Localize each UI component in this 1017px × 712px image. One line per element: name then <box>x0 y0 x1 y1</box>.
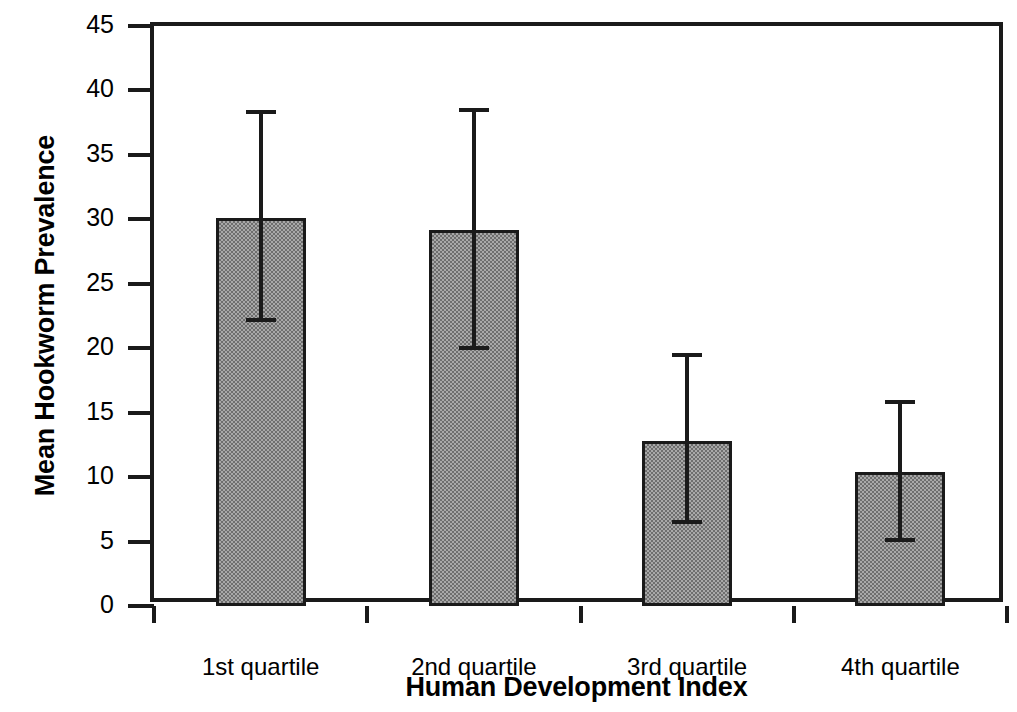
error-bar-cap-upper <box>672 353 702 357</box>
y-axis-tick-mark <box>128 282 154 286</box>
y-axis-tick-mark <box>128 88 154 92</box>
error-bar-cap-lower <box>885 538 915 542</box>
y-axis-tick-label-text: 5 <box>100 526 114 555</box>
error-bar-cap-lower <box>459 346 489 350</box>
error-bar-stem <box>259 112 263 320</box>
y-axis-title: Mean Hookworm Prevalence <box>30 16 61 616</box>
y-axis-tick-mark <box>128 411 154 415</box>
y-axis-tick-label-text: 0 <box>100 590 114 619</box>
y-axis-tick-mark <box>128 153 154 157</box>
error-bar-stem <box>898 402 902 540</box>
x-axis-tick-mark <box>365 606 369 623</box>
y-axis-tick-mark <box>128 24 154 28</box>
x-axis-tick-mark <box>152 606 156 623</box>
error-bar-cap-lower <box>672 520 702 524</box>
y-axis-tick-label-text: 30 <box>86 203 114 232</box>
x-axis-category-label: 4th quartile <box>794 653 1007 681</box>
y-axis-tick-label-text: 35 <box>86 139 114 168</box>
y-axis-tick-mark <box>128 540 154 544</box>
x-axis-tick-mark <box>579 606 583 623</box>
error-bar-stem <box>685 355 689 523</box>
y-axis-tick-mark <box>128 604 154 608</box>
y-axis-tick-label-text: 25 <box>86 268 114 297</box>
bar-chart-figure: Mean Hookworm Prevalence Human Developme… <box>0 0 1017 712</box>
x-axis-category-label: 1st quartile <box>154 653 367 681</box>
plot-area: 0510152025303540451st quartile2nd quarti… <box>150 22 1003 602</box>
x-axis-tick-mark <box>1005 606 1009 623</box>
error-bar-stem <box>472 110 476 348</box>
error-bar-cap-upper <box>459 108 489 112</box>
error-bar-cap-upper <box>246 110 276 114</box>
error-bar-cap-lower <box>246 318 276 322</box>
y-axis-tick-mark <box>128 346 154 350</box>
y-axis-tick-label-text: 10 <box>86 461 114 490</box>
y-axis-tick-mark <box>128 217 154 221</box>
y-axis-tick-label-text: 40 <box>86 74 114 103</box>
x-axis-category-label: 2nd quartile <box>367 653 580 681</box>
y-axis-tick-label-text: 20 <box>86 332 114 361</box>
y-axis-tick-label-text: 15 <box>86 397 114 426</box>
y-axis-tick-mark <box>128 475 154 479</box>
x-axis-tick-mark <box>792 606 796 623</box>
y-axis-tick-label-text: 45 <box>86 10 114 39</box>
x-axis-category-label: 3rd quartile <box>581 653 794 681</box>
error-bar-cap-upper <box>885 400 915 404</box>
